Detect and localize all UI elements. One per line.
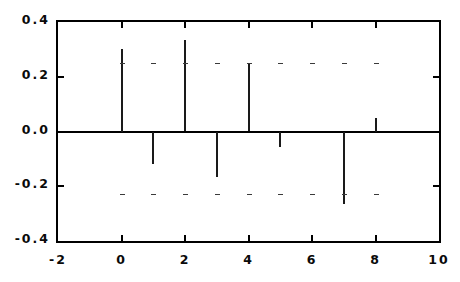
y-tick-label: -0.4: [15, 231, 50, 246]
stem-bar: [121, 49, 123, 131]
x-tick-label: 2: [180, 252, 191, 267]
y-tick-label: 0.0: [22, 122, 50, 137]
stem-bar: [248, 64, 250, 131]
y-tick-label: 0.4: [22, 12, 50, 27]
y-tick-label: 0.2: [22, 67, 50, 82]
stem-bar: [375, 118, 377, 132]
x-tick-label: 4: [243, 252, 254, 267]
grid-dash-mark: [120, 194, 125, 195]
grid-dash-mark: [215, 63, 220, 64]
grid-dash-mark: [183, 63, 188, 64]
x-tick-label: -2: [49, 252, 67, 267]
y-axis-tick: [433, 131, 439, 133]
plot-frame: [56, 20, 441, 243]
stem-bar: [343, 132, 345, 205]
stem-bar: [279, 132, 281, 148]
y-axis-tick: [433, 185, 439, 187]
x-axis-tick: [311, 22, 313, 28]
grid-dash-mark: [120, 63, 125, 64]
x-axis-tick: [121, 22, 123, 28]
grid-dash-mark: [342, 194, 347, 195]
plot-area: [58, 22, 439, 241]
grid-dash-mark: [310, 63, 315, 64]
grid-dash-mark: [247, 194, 252, 195]
grid-dash-mark: [310, 194, 315, 195]
grid-dash-mark: [215, 194, 220, 195]
stem-bar: [152, 132, 154, 165]
grid-dash-mark: [151, 194, 156, 195]
grid-dash-mark: [183, 194, 188, 195]
x-axis-tick: [375, 235, 377, 241]
y-axis-tick: [58, 131, 64, 133]
y-axis-tick: [58, 185, 64, 187]
x-axis-tick: [184, 22, 186, 28]
grid-dash-mark: [278, 63, 283, 64]
grid-dash-mark: [247, 63, 252, 64]
grid-dash-mark: [374, 63, 379, 64]
x-axis-tick: [311, 235, 313, 241]
y-axis-tick: [58, 76, 64, 78]
x-tick-label: 0: [116, 252, 127, 267]
x-axis-tick: [248, 235, 250, 241]
grid-dash-mark: [278, 194, 283, 195]
y-tick-label: -0.2: [15, 176, 50, 191]
grid-dash-mark: [342, 63, 347, 64]
x-axis-tick: [184, 235, 186, 241]
x-tick-label: 6: [307, 252, 318, 267]
x-tick-label: 10: [428, 252, 449, 267]
x-axis-tick: [248, 22, 250, 28]
grid-dash-mark: [374, 194, 379, 195]
chart-canvas: -0.4-0.20.00.20.4-20246810: [0, 0, 460, 282]
x-axis-tick: [375, 22, 377, 28]
stem-bar: [184, 40, 186, 132]
grid-dash-mark: [151, 63, 156, 64]
x-axis-tick: [121, 235, 123, 241]
x-tick-label: 8: [370, 252, 381, 267]
stem-bar: [216, 132, 218, 177]
y-axis-tick: [433, 76, 439, 78]
